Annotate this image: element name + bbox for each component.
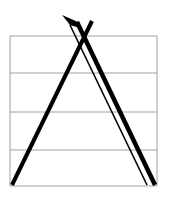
letter-a-diagram [0,0,170,198]
background [0,0,170,198]
